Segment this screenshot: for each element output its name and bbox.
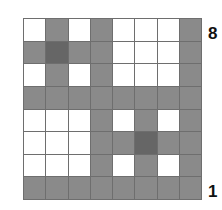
- grid-cell: [113, 177, 134, 199]
- grid-cell: [46, 87, 67, 109]
- grid-cell: [113, 42, 134, 64]
- grid-cell: [180, 19, 201, 41]
- grid-cell: [113, 64, 134, 86]
- grid-cell: [135, 110, 156, 132]
- grid-cell: [91, 64, 112, 86]
- grid-cell: [158, 42, 179, 64]
- grid-cell: [158, 132, 179, 154]
- grid-cell: [91, 110, 112, 132]
- grid-board: [23, 18, 202, 200]
- rank-label-bottom: 1: [208, 183, 217, 200]
- grid-cell: [46, 110, 67, 132]
- grid-cell: [24, 110, 45, 132]
- grid-cell: [46, 155, 67, 177]
- grid-cell: [180, 42, 201, 64]
- grid-cell: [180, 177, 201, 199]
- grid-cell: [69, 87, 90, 109]
- rank-label-top: 8: [208, 25, 217, 42]
- grid-cell: [180, 87, 201, 109]
- grid-cell: [46, 64, 67, 86]
- grid-cell: [113, 155, 134, 177]
- grid-cell: [113, 87, 134, 109]
- grid-cell: [91, 177, 112, 199]
- grid-cell: [135, 19, 156, 41]
- grid-cell: [46, 19, 67, 41]
- grid-cell: [158, 87, 179, 109]
- grid-cell: [135, 87, 156, 109]
- grid-cell: [135, 42, 156, 64]
- grid-cell: [46, 132, 67, 154]
- grid-cell: [69, 19, 90, 41]
- grid-cell: [24, 87, 45, 109]
- grid-cell: [135, 64, 156, 86]
- grid-cell: [135, 177, 156, 199]
- grid-cell: [24, 177, 45, 199]
- grid-cell: [24, 64, 45, 86]
- grid-cell: [113, 19, 134, 41]
- grid-cell: [180, 155, 201, 177]
- grid-cell: [158, 155, 179, 177]
- grid-cell: [113, 110, 134, 132]
- grid-cell: [91, 42, 112, 64]
- grid-cell: [46, 42, 67, 64]
- grid-cell: [91, 19, 112, 41]
- grid-cell: [180, 110, 201, 132]
- grid-cell: [158, 110, 179, 132]
- grid-cell: [69, 42, 90, 64]
- grid-cell: [69, 177, 90, 199]
- grid-cell: [180, 132, 201, 154]
- grid-cell: [69, 132, 90, 154]
- grid-cell: [69, 64, 90, 86]
- grid-cell: [158, 19, 179, 41]
- grid-cell: [91, 132, 112, 154]
- grid-cell: [158, 64, 179, 86]
- grid-cell: [24, 132, 45, 154]
- grid-cell: [69, 110, 90, 132]
- grid-cell: [91, 155, 112, 177]
- grid-cell: [91, 87, 112, 109]
- grid-cell: [158, 177, 179, 199]
- grid-cell: [69, 155, 90, 177]
- grid-cell: [24, 19, 45, 41]
- grid-cell: [113, 132, 134, 154]
- grid-cell: [24, 42, 45, 64]
- grid-cell: [24, 155, 45, 177]
- grid-cell: [135, 132, 156, 154]
- grid-cell: [46, 177, 67, 199]
- grid-cell: [180, 64, 201, 86]
- grid-cell: [135, 155, 156, 177]
